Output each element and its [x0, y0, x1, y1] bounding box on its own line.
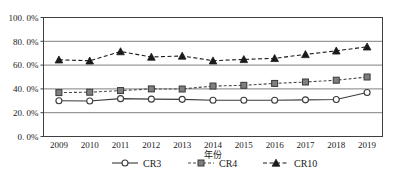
x-tick-label: 2019 [358, 140, 377, 150]
data-point-cr3-2015 [241, 97, 247, 103]
legend-marker-cr4 [198, 160, 204, 166]
plot-frame [44, 18, 383, 137]
data-point-cr3-2016 [272, 97, 278, 103]
data-point-cr4-2016 [272, 80, 278, 86]
data-point-cr4-2015 [241, 82, 247, 88]
x-axis-ticks: 2009201020112012201320142015201620172018… [50, 140, 377, 150]
data-point-cr3-2019 [364, 89, 370, 95]
data-point-cr4-2013 [179, 86, 185, 92]
data-point-cr3-2009 [56, 98, 62, 104]
data-point-cr3-2018 [333, 96, 339, 102]
legend-marker-cr3 [122, 160, 128, 166]
data-point-cr3-2012 [148, 96, 154, 102]
plot-border [44, 18, 383, 137]
x-tick-label: 2011 [112, 140, 130, 150]
x-tick-label: 2014 [204, 140, 223, 150]
y-tick-label: 40. 0% [13, 84, 39, 94]
data-point-cr10-2013 [178, 52, 186, 59]
data-point-cr3-2011 [118, 96, 124, 102]
data-point-cr4-2018 [333, 77, 339, 83]
data-point-cr3-2017 [302, 97, 308, 103]
series-cr10 [55, 43, 371, 64]
x-tick-label: 2009 [50, 140, 69, 150]
data-point-cr4-2009 [56, 90, 62, 96]
line-chart: 0. 0%20. 0%40. 0%60. 0%80. 0%100. 0% 200… [0, 0, 394, 174]
y-tick-label: 80. 0% [13, 37, 39, 47]
x-tick-label: 2017 [296, 140, 315, 150]
data-point-cr4-2011 [118, 88, 124, 94]
legend-label-cr3: CR3 [143, 158, 161, 169]
x-tick-label: 2012 [142, 140, 160, 150]
legend-label-cr4: CR4 [219, 158, 237, 169]
x-tick-label: 2018 [327, 140, 346, 150]
legend-item-cr10[interactable]: CR10 [263, 158, 317, 169]
data-point-cr4-2017 [302, 79, 308, 85]
data-point-cr3-2013 [179, 96, 185, 102]
data-point-cr4-2014 [210, 83, 216, 89]
chart-container: 0. 0%20. 0%40. 0%60. 0%80. 0%100. 0% 200… [0, 0, 394, 174]
data-point-cr4-2019 [364, 74, 370, 80]
data-point-cr4-2010 [87, 89, 93, 95]
x-tick-label: 2013 [173, 140, 192, 150]
data-point-cr3-2014 [210, 97, 216, 103]
data-point-cr10-2019 [363, 43, 371, 50]
y-tick-label: 20. 0% [13, 108, 39, 118]
series-cr3 [56, 89, 370, 104]
y-tick-label: 100. 0% [9, 13, 40, 23]
y-tick-label: 60. 0% [13, 60, 39, 70]
x-tick-label: 2010 [81, 140, 100, 150]
data-series [55, 43, 371, 104]
series-cr4 [56, 74, 370, 96]
x-tick-label: 2016 [266, 140, 285, 150]
y-axis-ticks: 0. 0%20. 0%40. 0%60. 0%80. 0%100. 0% [9, 13, 44, 142]
x-tick-label: 2015 [235, 140, 254, 150]
legend-label-cr10: CR10 [294, 158, 317, 169]
y-tick-label: 0. 0% [18, 132, 40, 142]
data-point-cr4-2012 [148, 86, 154, 92]
data-point-cr10-2017 [302, 51, 310, 58]
data-point-cr10-2011 [117, 48, 125, 55]
legend-item-cr3[interactable]: CR3 [112, 158, 161, 169]
data-point-cr3-2010 [87, 98, 93, 104]
